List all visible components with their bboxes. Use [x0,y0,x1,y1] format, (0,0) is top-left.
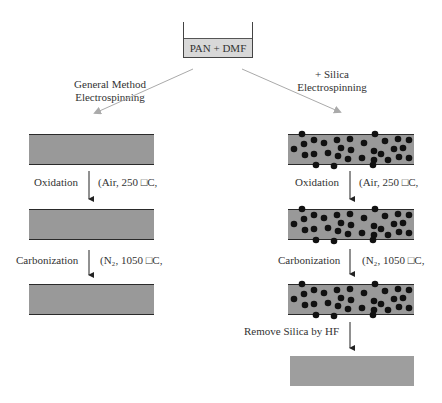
right-branch-arrow [242,69,340,112]
silica-particles-2 [291,206,413,245]
diagram-graphics [0,0,442,403]
silica-particles-1 [291,131,413,170]
left-branch-arrow [95,69,193,113]
silica-particles-3 [291,281,413,320]
